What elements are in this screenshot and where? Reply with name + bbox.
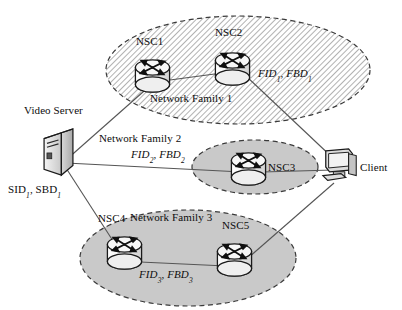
family-label-2: Network Family 2 <box>99 132 181 144</box>
fid-subscript-2: 2 <box>150 156 154 165</box>
router-label-nsc5: NSC5 <box>222 219 249 231</box>
fbd-subscript-1: 1 <box>308 75 312 84</box>
diagram-canvas <box>0 0 402 310</box>
video-server-label: Video Server <box>24 104 83 116</box>
router-label-nsc3: NSC3 <box>268 161 295 173</box>
fid-label-3: FID <box>139 268 158 280</box>
family-metric-2: FID2, FBD2 <box>131 148 185 163</box>
router-label-nsc4: NSC4 <box>98 212 125 224</box>
family-metric-3: FID3, FBD3 <box>139 268 193 283</box>
sid-subscript: 1 <box>26 191 30 200</box>
fid-label-1: FID <box>258 67 277 79</box>
router-nsc4[interactable] <box>107 237 141 269</box>
router-label-nsc2: NSC2 <box>215 26 242 38</box>
router-nsc5[interactable] <box>217 244 251 276</box>
fbd-subscript-3: 3 <box>189 276 193 285</box>
video-server-icon[interactable] <box>44 129 73 175</box>
family-label-1: Network Family 1 <box>150 92 232 104</box>
network-topology-diagram: NSC1 NSC2 NSC3 NSC4 NSC5 Network Family … <box>0 0 402 310</box>
sid-label: SID <box>8 183 26 195</box>
fid-subscript-1: 1 <box>277 75 281 84</box>
fid-subscript-3: 3 <box>158 276 162 285</box>
fbd-subscript-2: 2 <box>181 156 185 165</box>
router-nsc2[interactable] <box>215 53 249 85</box>
client-workstation-icon[interactable] <box>323 149 356 180</box>
client-label: Client <box>360 161 388 173</box>
router-nsc3[interactable] <box>231 153 265 185</box>
fid-label-2: FID <box>131 148 150 160</box>
fbd-label-2: FBD <box>159 148 181 160</box>
router-label-nsc1: NSC1 <box>136 35 163 47</box>
sbd-subscript: 1 <box>57 191 61 200</box>
family-label-3: Network Family 3 <box>130 211 212 223</box>
fbd-label-1: FBD <box>286 67 308 79</box>
server-annotation: SID1, SBD1 <box>8 183 61 198</box>
router-nsc1[interactable] <box>135 60 169 92</box>
family-metric-1: FID1, FBD1 <box>258 67 312 82</box>
fbd-label-3: FBD <box>167 268 189 280</box>
sbd-label: SBD <box>36 183 58 195</box>
